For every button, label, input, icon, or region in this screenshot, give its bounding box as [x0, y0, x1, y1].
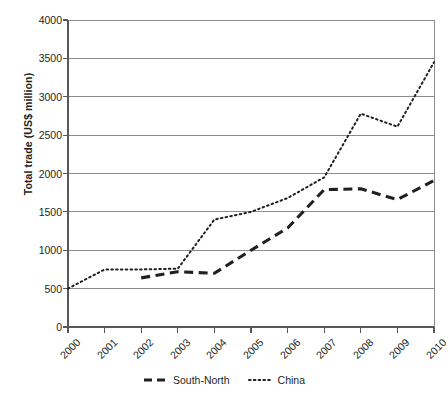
legend-label: South-North	[173, 374, 230, 386]
dashed-line-icon	[143, 375, 167, 385]
series-line-china	[68, 62, 434, 288]
dotted-line-icon	[248, 375, 272, 385]
legend-item[interactable]: China	[248, 374, 305, 386]
plot-area	[0, 0, 448, 398]
series-line-south-north	[141, 180, 434, 277]
legend-label: China	[278, 374, 305, 386]
chart-legend: South-NorthChina	[0, 374, 448, 386]
legend-item[interactable]: South-North	[143, 374, 230, 386]
chart-figure: Total trade (US$ million) 05001000150020…	[0, 0, 448, 398]
